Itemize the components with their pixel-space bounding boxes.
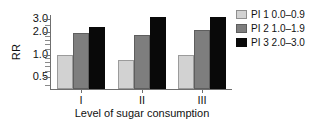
legend-item: PI 1 0.0–0.9: [236, 9, 322, 20]
bar: [134, 35, 150, 89]
y-tick-minor: [45, 44, 50, 45]
y-tick-minor: [45, 58, 50, 59]
y-tick-minor: [45, 62, 50, 63]
y-tick-major: [44, 77, 50, 78]
x-axis-title: Level of sugar consumption: [51, 107, 233, 119]
x-tick-label: I: [61, 94, 101, 106]
x-axis-line: [50, 89, 232, 90]
legend-item: PI 2 1.0–1.9: [236, 23, 322, 34]
x-tick-label: III: [182, 94, 222, 106]
bar: [150, 17, 166, 89]
y-tick-major: [44, 32, 50, 33]
y-tick-minor: [45, 66, 50, 67]
bar-chart-figure: RR 0.51.02.03.0 IIIIII Level of sugar co…: [0, 0, 322, 124]
y-tick-minor: [45, 85, 50, 86]
bar: [89, 27, 105, 89]
bar: [118, 60, 134, 89]
bar-group: [57, 15, 105, 89]
plot-area: [51, 15, 232, 89]
x-tick-mark: [81, 89, 82, 93]
legend-item: PI 3 2.0–3.0: [236, 37, 322, 48]
y-tick-major: [44, 55, 50, 56]
y-axis-title: RR: [10, 32, 22, 72]
y-tick-minor: [45, 25, 50, 26]
bar: [73, 33, 89, 89]
legend-swatch-icon: [236, 24, 247, 33]
legend-label: PI 2 1.0–1.9: [251, 24, 305, 34]
y-tick-major: [44, 19, 50, 20]
y-tick-minor: [45, 36, 50, 37]
bar: [57, 55, 73, 89]
x-tick-mark: [202, 89, 203, 93]
legend-swatch-icon: [236, 38, 247, 47]
bar: [194, 30, 210, 89]
legend-label: PI 3 2.0–3.0: [251, 38, 305, 48]
x-tick-label: II: [122, 94, 162, 106]
y-tick-minor: [45, 49, 50, 50]
chart-legend: PI 1 0.0–0.9PI 2 1.0–1.9PI 3 2.0–3.0: [236, 9, 322, 51]
legend-swatch-icon: [236, 10, 247, 19]
bar: [210, 17, 226, 89]
bar: [178, 55, 194, 89]
legend-label: PI 1 0.0–0.9: [251, 10, 305, 20]
y-tick-minor: [45, 71, 50, 72]
bar-group: [178, 15, 226, 89]
bar-group: [118, 15, 166, 89]
x-tick-mark: [142, 89, 143, 93]
y-tick-minor: [45, 40, 50, 41]
